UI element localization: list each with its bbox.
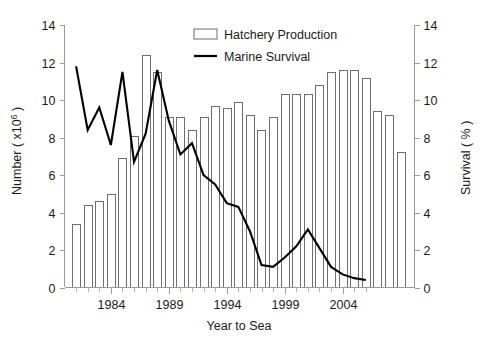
bar [247, 116, 255, 288]
bar [96, 202, 104, 288]
x-axis: 19841989199419992004 [65, 288, 415, 312]
y-tick-label: 4 [49, 207, 56, 221]
y-tick-label: 10 [42, 94, 56, 108]
bar [143, 56, 151, 288]
y-axis-title-main: Number ( x10 [10, 119, 24, 195]
y-tick-label: 2 [49, 244, 56, 258]
y2-tick-label: 2 [424, 244, 431, 258]
x-tick-label: 1994 [214, 298, 242, 312]
y2-tick-label: 10 [424, 94, 438, 108]
y-tick-label: 6 [49, 169, 56, 183]
bar [85, 206, 93, 288]
y-tick-label: 12 [42, 57, 56, 71]
legend-swatch-bar-icon [194, 29, 217, 39]
legend-label-marine-survival: Marine Survival [224, 50, 310, 64]
x-tick-label: 1999 [272, 298, 300, 312]
x-axis-title: Year to Sea [207, 319, 272, 333]
bar [154, 73, 162, 288]
bar [108, 195, 116, 288]
y2-tick-label: 0 [424, 282, 431, 296]
left-y-axis: 02468101214 [42, 19, 65, 296]
y2-tick-label: 14 [424, 19, 438, 33]
bar [201, 118, 209, 288]
y-tick-label: 8 [49, 132, 56, 146]
bar [363, 79, 371, 288]
bar [293, 95, 301, 288]
legend-label-hatchery-production: Hatchery Production [224, 28, 337, 42]
x-tick-label: 1984 [98, 298, 126, 312]
legend-item-hatchery-production: Hatchery Production [194, 28, 337, 42]
bar [398, 153, 406, 288]
y2-axis-title-text: Survival ( % ) [459, 121, 473, 195]
legend-item-marine-survival: Marine Survival [194, 50, 310, 64]
bar [340, 71, 348, 288]
y-tick-label: 0 [49, 282, 56, 296]
y-axis-title-tail: ) [10, 107, 24, 115]
chart-figure: 02468101214 02468101214 1984198919941999… [0, 0, 488, 341]
bar [177, 118, 185, 288]
bar [386, 116, 394, 288]
chart-legend: Hatchery Production Marine Survival [194, 28, 337, 64]
x-tick-label: 2004 [330, 298, 358, 312]
bar [270, 118, 278, 288]
x-axis-title-text: Year to Sea [207, 319, 272, 333]
bar [374, 112, 382, 288]
y-tick-label: 14 [42, 19, 56, 33]
y2-tick-label: 6 [424, 169, 431, 183]
bar [351, 71, 359, 288]
plot-bars [73, 56, 406, 288]
bar [73, 225, 81, 288]
bar [212, 107, 220, 288]
x-tick-label: 1989 [156, 298, 184, 312]
y2-axis-title: Survival ( % ) [459, 121, 473, 195]
bar [119, 159, 127, 288]
bar [235, 103, 243, 288]
y2-tick-label: 8 [424, 132, 431, 146]
y2-tick-label: 4 [424, 207, 431, 221]
svg-text:Number ( x106 ): Number ( x106 ) [9, 107, 24, 195]
bar [305, 95, 313, 288]
bar [328, 73, 336, 288]
y-axis-title: Number ( x106 ) [9, 107, 24, 195]
y2-tick-label: 12 [424, 57, 438, 71]
chart-canvas: 02468101214 02468101214 1984198919941999… [0, 0, 488, 341]
right-y-axis: 02468101214 [415, 19, 438, 296]
bar [166, 118, 174, 288]
bar [316, 86, 324, 288]
